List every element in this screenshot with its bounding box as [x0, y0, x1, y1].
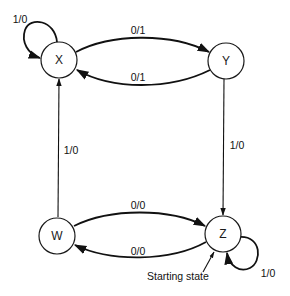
state-label-w: W	[51, 229, 63, 243]
edge-label-w-to-z: 0/0	[131, 199, 146, 211]
edge-label-x-to-y: 0/1	[131, 24, 146, 36]
edge-label-y-to-x: 0/1	[131, 71, 146, 83]
starting-state-label: Starting state	[147, 270, 209, 282]
edge-label-z-self: 1/0	[261, 267, 276, 279]
starting-state-pointer	[203, 252, 214, 272]
state-node-y: Y	[208, 43, 244, 79]
edge-y-to-z	[223, 79, 224, 215]
state-label-z: Z	[219, 227, 226, 241]
edge-label-x-self: 1/0	[13, 13, 28, 25]
edge-x-to-y	[76, 38, 209, 52]
edge-label-w-to-x: 1/0	[64, 144, 79, 156]
state-label-y: Y	[222, 54, 230, 68]
edge-w-to-z	[74, 213, 205, 227]
edge-w-to-x	[58, 79, 59, 217]
state-node-x: X	[41, 42, 77, 78]
edge-label-z-to-w: 0/0	[131, 245, 146, 257]
state-node-z: Z	[205, 216, 241, 252]
state-node-w: W	[39, 218, 75, 254]
state-diagram: 1/0 0/1 0/1 1/0 1/0 0/0 0/0 1/0 Starting…	[0, 0, 290, 296]
state-label-x: X	[55, 53, 63, 67]
edge-label-y-to-z: 1/0	[230, 139, 245, 151]
